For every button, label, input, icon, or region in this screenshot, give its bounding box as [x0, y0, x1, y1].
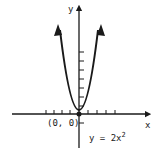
equation-label: y = 2x2	[89, 132, 126, 143]
x-axis-label: x	[145, 121, 150, 130]
parabola-graph	[0, 0, 161, 152]
origin-label: (0, 0)	[47, 119, 80, 128]
y-axis-label: y	[68, 5, 73, 14]
equation-exponent: 2	[122, 131, 126, 139]
equation-base: y = 2x	[89, 133, 122, 143]
curve-arrow-right	[97, 24, 105, 36]
origin-point	[77, 112, 82, 117]
